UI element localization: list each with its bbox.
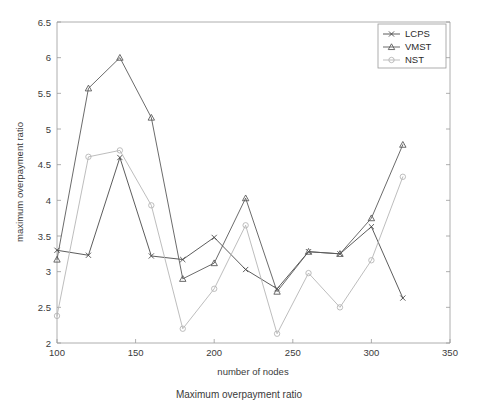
y-tick-label: 6.5 [38,17,51,28]
y-tick-label: 5.5 [38,88,51,99]
x-tick-label: 200 [206,347,222,358]
figure-container: 100150200250300350 22.533.544.555.566.5 … [0,0,478,410]
y-axis-title: maximum overpayment ratio [14,122,25,242]
line-chart: 100150200250300350 22.533.544.555.566.5 … [0,0,478,410]
x-tick-label: 300 [363,347,379,358]
y-tick-label: 3 [46,266,51,277]
legend-label-nst: NST [405,54,424,65]
y-tick-label: 4 [46,195,51,206]
x-tick-label: 100 [49,347,65,358]
y-tick-label: 4.5 [38,159,51,170]
x-tick-label: 350 [442,347,458,358]
y-tick-label: 6 [46,52,51,63]
legend[interactable]: LCPSVMSTNST [378,24,446,68]
y-tick-label: 2.5 [38,302,51,313]
y-tick-label: 3.5 [38,231,51,242]
y-tick-label: 5 [46,124,51,135]
x-tick-label: 250 [285,347,301,358]
legend-label-vmst: VMST [405,41,432,52]
y-tick-label: 2 [46,338,51,349]
x-tick-label: 150 [128,347,144,358]
figure-caption: Maximum overpayment ratio [176,389,303,400]
x-axis-title: number of nodes [217,366,289,377]
legend-label-lcps: LCPS [405,28,430,39]
